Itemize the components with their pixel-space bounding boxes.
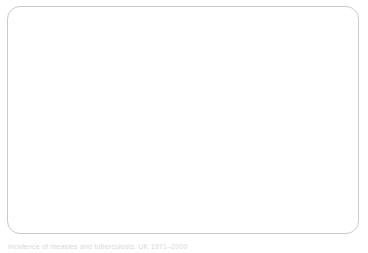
figure-caption: Incidence of measles and tuberculosis, U… bbox=[8, 243, 360, 253]
figure-frame bbox=[7, 6, 359, 234]
figure-container: 0.020.040.060.080.0100.0120.0140.0160.01… bbox=[0, 0, 368, 253]
